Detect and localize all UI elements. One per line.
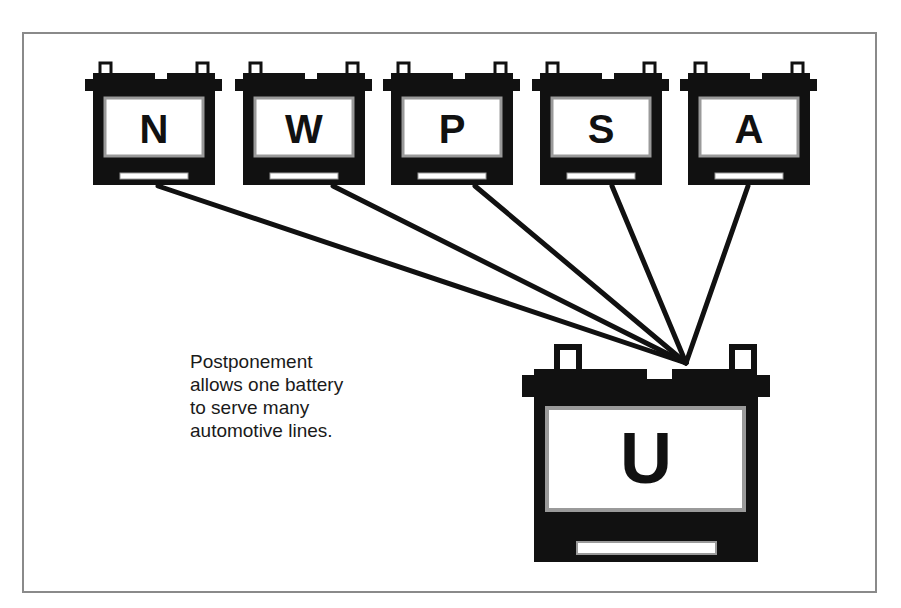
battery-label: S: [588, 107, 615, 151]
connector-lines: [158, 186, 748, 363]
battery-label: N: [140, 107, 169, 151]
caption-line: to serve many: [190, 396, 430, 419]
caption-text: Postponement allows one battery to serve…: [190, 350, 430, 442]
battery-u-icon: U: [522, 347, 770, 562]
caption-line: automotive lines.: [190, 419, 430, 442]
battery-label: P: [439, 107, 466, 151]
battery-s-icon: S: [532, 63, 669, 185]
battery-postponement-diagram: N W P S A U: [0, 0, 901, 608]
connector-n-to-u: [158, 186, 686, 363]
battery-p-icon: P: [383, 63, 520, 185]
caption-line: Postponement: [190, 350, 430, 373]
battery-label: U: [620, 418, 672, 498]
battery-label: W: [285, 107, 323, 151]
connector-a-to-u: [686, 186, 748, 363]
battery-a-icon: A: [680, 63, 817, 185]
battery-n-icon: N: [85, 63, 222, 185]
caption-line: allows one battery: [190, 373, 430, 396]
battery-w-icon: W: [235, 63, 372, 185]
battery-label: A: [735, 107, 764, 151]
connector-s-to-u: [612, 186, 686, 363]
